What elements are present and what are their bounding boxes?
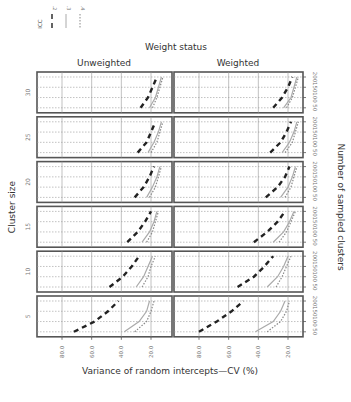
panel: 30: [24, 72, 172, 113]
legend-label: .4: [80, 6, 86, 11]
y-tick-label: 150: [312, 127, 318, 138]
panel: 50100150200: [174, 117, 318, 158]
y-tick-label: 100: [312, 182, 318, 193]
y-tick-label: 150: [312, 306, 318, 317]
y-tick-label: 150: [312, 82, 318, 93]
y-tick-label: 150: [312, 261, 318, 272]
y-tick-label: 50: [312, 239, 318, 246]
facet-label-weighted: Weighted: [217, 58, 260, 68]
legend-label: .3: [66, 6, 72, 11]
panel: 50100150200: [174, 161, 318, 202]
row-facet-label: 5: [24, 314, 31, 318]
panel: 5010015020080.060.040.020.0: [174, 296, 318, 358]
x-tick-label: 60.0: [226, 345, 232, 358]
x-tick-label: 60.0: [89, 345, 95, 358]
x-tick-label: 40.0: [255, 345, 261, 358]
secondary-y-axis-label: Number of sampled clusters: [336, 143, 346, 270]
panel-grid: 3050100150200255010015020020501001502001…: [24, 72, 318, 358]
row-facet-label: 25: [24, 133, 31, 141]
row-facet-label: 10: [24, 268, 31, 276]
x-tick-label: 80.0: [196, 345, 202, 358]
y-axis-label: Cluster size: [7, 180, 17, 233]
panel: 50100150200: [174, 251, 318, 292]
legend-label: .2: [52, 6, 58, 11]
legend: ICC.2.3.4: [37, 6, 86, 29]
y-tick-label: 200: [312, 117, 318, 128]
faceted-line-chart: ICC.2.3.4 Weight status Unweighted Weigh…: [0, 0, 351, 402]
y-tick-label: 200: [312, 251, 318, 262]
x-axis-label: Variance of random intercepts—CV (%): [82, 366, 258, 376]
panel: 50100150200: [174, 72, 318, 113]
y-tick-label: 100: [312, 316, 318, 327]
row-facet-label: 30: [24, 88, 31, 96]
y-tick-label: 100: [312, 271, 318, 282]
y-tick-label: 100: [312, 92, 318, 103]
y-tick-label: 50: [312, 194, 318, 201]
y-tick-label: 150: [312, 216, 318, 227]
panel: 50100150200: [174, 206, 318, 247]
panel: 25: [24, 117, 172, 158]
panel: 10: [24, 251, 172, 292]
x-tick-label: 20.0: [285, 345, 291, 358]
row-facet-label: 20: [24, 178, 31, 186]
legend-title: ICC: [37, 19, 43, 28]
panel: 20: [24, 162, 172, 203]
y-tick-label: 200: [312, 296, 318, 307]
y-tick-label: 200: [312, 161, 318, 172]
x-tick-label: 80.0: [59, 345, 65, 358]
row-facet-label: 15: [24, 223, 31, 231]
y-tick-label: 50: [312, 104, 318, 111]
y-tick-label: 100: [312, 137, 318, 148]
chart-title: Weight status: [145, 42, 207, 52]
y-tick-label: 200: [312, 206, 318, 217]
panel: 580.060.040.020.0: [24, 296, 172, 358]
y-tick-label: 150: [312, 172, 318, 183]
x-tick-label: 40.0: [118, 345, 124, 358]
y-tick-label: 100: [312, 227, 318, 238]
y-tick-label: 50: [312, 284, 318, 291]
y-tick-label: 50: [312, 149, 318, 156]
y-tick-label: 200: [312, 72, 318, 83]
x-tick-label: 20.0: [148, 345, 154, 358]
facet-label-unweighted: Unweighted: [77, 58, 131, 68]
y-tick-label: 50: [312, 328, 318, 335]
panel: 15: [24, 206, 172, 247]
